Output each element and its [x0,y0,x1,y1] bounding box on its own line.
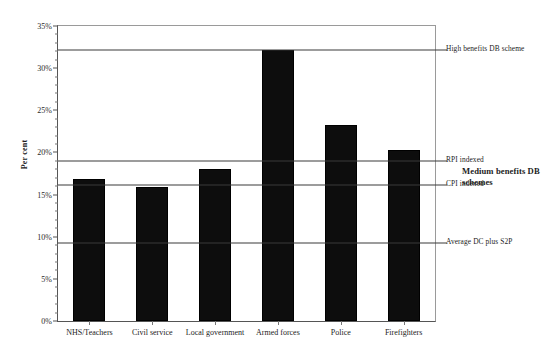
y-axis-minor-tick [55,127,58,128]
y-axis-tick-label: 35% [37,22,58,31]
y-axis-minor-tick [55,253,58,254]
y-axis-minor-tick [55,295,58,296]
reference-line [58,242,435,243]
x-axis-tick [404,321,405,325]
y-axis-minor-tick [55,42,58,43]
reference-line [58,49,435,50]
reference-line-label: RPI indexed [446,155,546,165]
x-axis-tick-label: Civil service [132,328,173,337]
y-axis-minor-tick [55,312,58,313]
y-axis-tick-label: 25% [37,106,58,115]
y-axis-tick-label: 20% [37,148,58,157]
x-axis-tick [341,321,342,325]
y-axis-minor-tick [55,211,58,212]
chart-annotation: Medium benefits DB schemes [462,166,552,188]
y-axis-tick-label: 15% [37,190,58,199]
reference-line [58,185,435,186]
y-axis-minor-tick [55,118,58,119]
y-axis-minor-tick [55,85,58,86]
y-axis-minor-tick [55,245,58,246]
y-axis-title: Per cent [20,125,29,185]
x-axis-tick [152,321,153,325]
y-axis-minor-tick [55,304,58,305]
y-axis-minor-tick [55,219,58,220]
y-axis-minor-tick [55,135,58,136]
y-axis-minor-tick [55,76,58,77]
x-axis-tick-label: Armed forces [256,328,300,337]
x-axis-tick [278,321,279,325]
y-axis-tick-label: 30% [37,64,58,73]
y-axis-minor-tick [55,51,58,52]
reference-line-label: High benefits DB scheme [446,44,546,54]
y-axis-minor-tick [55,287,58,288]
bar [136,187,168,321]
y-axis-minor-tick [55,262,58,263]
y-axis-tick-label: 10% [37,232,58,241]
reference-line [58,160,435,161]
y-axis-minor-tick [55,203,58,204]
x-axis-tick-label: NHS/Teachers [66,328,113,337]
y-axis-minor-tick [55,228,58,229]
bar-chart: Per cent 0%5%10%15%20%25%30%35%NHS/Teach… [0,0,552,356]
bar [325,125,357,321]
y-axis-minor-tick [55,169,58,170]
plot-area: 0%5%10%15%20%25%30%35%NHS/TeachersCivil … [57,25,436,322]
y-axis-tick-label: 0% [41,317,58,326]
y-axis-minor-tick [55,144,58,145]
y-axis-minor-tick [55,101,58,102]
y-axis-minor-tick [55,270,58,271]
x-axis-tick-label: Local government [186,328,244,337]
y-axis-minor-tick [55,177,58,178]
reference-line-label: Average DC plus S2P [446,237,546,247]
y-axis-minor-tick [55,93,58,94]
x-axis-tick-label: Firefighters [385,328,422,337]
x-axis-tick [215,321,216,325]
x-axis-tick-label: Police [331,328,351,337]
x-axis-tick [89,321,90,325]
y-axis-minor-tick [55,59,58,60]
bar [199,169,231,321]
y-axis-tick-label: 5% [41,274,58,283]
bar [388,150,420,321]
y-axis-minor-tick [55,34,58,35]
bar [73,179,105,321]
